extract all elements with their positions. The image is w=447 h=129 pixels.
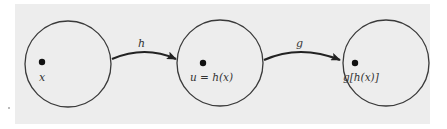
node-range: g[h(x)] [343,20,429,106]
composition-diagram: x u = h(x) g[h(x)] h g [0,0,447,129]
arrow-g [264,52,340,60]
node-middle: u = h(x) [177,20,263,106]
domain-circle [25,21,111,107]
label-h: h [138,37,145,50]
label-g-of-h-x: g[h(x)] [343,71,380,83]
arrow-h [112,52,176,59]
point-x [39,59,45,65]
label-u-equals-h-x: u = h(x) [190,71,233,83]
label-x: x [39,71,46,84]
node-domain: x [25,21,111,107]
label-g: g [296,37,303,50]
middle-circle [177,20,263,106]
point-g-h-x [352,60,358,66]
point-u [200,60,206,66]
edge-g: g [264,37,340,60]
edge-h: h [112,37,176,59]
